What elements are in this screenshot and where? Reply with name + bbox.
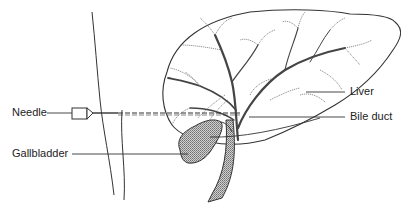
gallbladder (179, 120, 222, 163)
bile-duct-label: Bile duct (350, 111, 392, 122)
gallbladder-label: Gallbladder (12, 148, 68, 159)
liver-label: Liver (350, 86, 374, 97)
needle-hub (72, 108, 87, 119)
needle-label: Needle (12, 107, 47, 118)
bile-duct-tree (168, 28, 345, 140)
needle-tip-cone (87, 108, 93, 119)
body-wall (92, 12, 124, 200)
liver-bile-duct-diagram (0, 0, 409, 215)
